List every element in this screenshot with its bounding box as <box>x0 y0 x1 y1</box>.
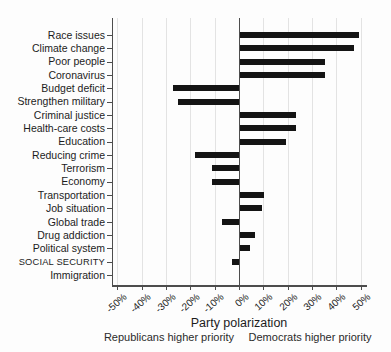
gridline <box>166 18 167 285</box>
x-tick-label: 10% <box>252 291 274 313</box>
bar-education <box>240 139 286 145</box>
y-tick <box>107 235 112 236</box>
bar-social-security <box>232 259 239 265</box>
x-tick <box>190 286 191 290</box>
category-label: Health-care costs <box>23 121 105 135</box>
category-label: Reducing crime <box>32 148 105 162</box>
x-tick <box>361 286 362 290</box>
republicans-higher-priority-label: Republicans higher priority <box>99 331 239 343</box>
y-tick <box>107 35 112 36</box>
bar-drug-addiction <box>240 232 255 238</box>
x-tick-label: -30% <box>153 291 178 315</box>
category-label: Education <box>58 134 105 148</box>
democrats-higher-priority-label: Democrats higher priority <box>240 331 380 343</box>
bar-economy <box>212 179 239 185</box>
category-label: Terrorism <box>61 161 105 175</box>
bar-terrorism <box>212 165 239 171</box>
gridline <box>190 18 191 285</box>
y-tick <box>107 75 112 76</box>
category-label: Economy <box>61 174 105 188</box>
x-tick-label: -50% <box>104 291 129 315</box>
bar-climate-change <box>240 45 354 51</box>
y-tick <box>107 208 112 209</box>
category-label: Criminal justice <box>34 108 105 122</box>
y-tick <box>107 222 112 223</box>
y-tick <box>107 62 112 63</box>
y-tick <box>107 168 112 169</box>
x-tick-label: -20% <box>177 291 202 315</box>
gridline <box>142 18 143 285</box>
bar-poor-people <box>240 59 325 65</box>
x-tick <box>312 286 313 290</box>
x-tick <box>263 286 264 290</box>
category-label: Strengthen military <box>17 94 105 108</box>
bar-political-system <box>240 245 250 251</box>
x-tick-label: 40% <box>325 291 347 313</box>
category-label: Race issues <box>48 28 105 42</box>
category-label: Budget deficit <box>41 81 105 95</box>
party-polarization-chart: Race issuesClimate changePoor peopleCoro… <box>0 0 391 352</box>
y-tick <box>107 48 112 49</box>
x-tick <box>336 286 337 290</box>
category-label: SOCIAL SECURITY <box>19 255 105 269</box>
category-label: Global trade <box>48 215 105 229</box>
x-tick-label: -10% <box>201 291 226 315</box>
category-label: Immigration <box>50 268 105 282</box>
category-label: Poor people <box>48 54 105 68</box>
y-tick <box>107 248 112 249</box>
y-tick <box>107 275 112 276</box>
bar-health-care-costs <box>240 125 296 131</box>
bar-criminal-justice <box>240 112 296 118</box>
y-tick <box>107 195 112 196</box>
x-tick-label: 50% <box>350 291 372 313</box>
category-label: Drug addiction <box>37 228 105 242</box>
x-tick <box>117 286 118 290</box>
bar-budget-deficit <box>173 85 239 91</box>
x-tick <box>288 286 289 290</box>
bar-reducing-crime <box>195 152 239 158</box>
category-label: Political system <box>33 241 105 255</box>
x-tick-label: 30% <box>301 291 323 313</box>
y-tick <box>107 102 112 103</box>
y-tick <box>107 88 112 89</box>
bar-global-trade <box>222 219 239 225</box>
category-label: Coronavirus <box>48 68 105 82</box>
x-tick <box>239 286 240 290</box>
y-tick <box>107 155 112 156</box>
gridline <box>361 18 362 285</box>
y-tick <box>107 115 112 116</box>
y-axis-line <box>112 18 113 285</box>
y-tick <box>107 128 112 129</box>
x-axis-title: Party polarization <box>139 316 339 330</box>
y-tick <box>107 262 112 263</box>
bar-job-situation <box>240 205 262 211</box>
gridline <box>336 18 337 285</box>
bar-race-issues <box>240 32 359 38</box>
bar-strengthen-military <box>178 99 239 105</box>
gridline <box>117 18 118 285</box>
x-tick <box>142 286 143 290</box>
bar-coronavirus <box>240 72 325 78</box>
y-tick <box>107 142 112 143</box>
x-tick-label: -40% <box>128 291 153 315</box>
y-tick <box>107 182 112 183</box>
x-tick <box>166 286 167 290</box>
x-tick <box>215 286 216 290</box>
category-label: Job situation <box>46 201 105 215</box>
x-tick-label: 0% <box>232 291 250 309</box>
x-tick-label: 20% <box>277 291 299 313</box>
bar-transportation <box>240 192 264 198</box>
category-label: Transportation <box>38 188 105 202</box>
category-label: Climate change <box>32 41 105 55</box>
